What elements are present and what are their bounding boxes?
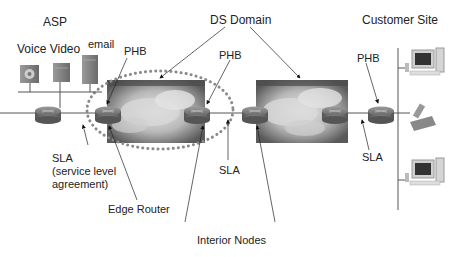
customer-site-label: Customer Site [362,14,438,27]
sla-left-line3: agreement) [52,178,116,191]
sla-label-left: SLA (service level agreement) [52,152,116,191]
diffserv-diagram: ASP Voice Video email DS Domain Customer… [0,0,469,257]
voice-server-icon [20,65,39,83]
voice-video-label: Voice Video [17,43,80,56]
phb-label-middle: PHB [219,49,242,62]
diagram-canvas [0,0,469,257]
asp-router-icon [35,107,61,125]
sla-left-line2: (service level [52,165,116,178]
edge-router-icon-1 [95,107,121,125]
sla-label-middle: SLA [219,164,240,177]
phb-label-right: PHB [357,52,380,65]
video-server-icon [53,63,70,82]
edge-router-icon-2 [184,107,210,125]
sla-label-right: SLA [362,151,383,164]
email-server-icon [82,55,98,84]
computer-icon-2 [405,158,444,185]
email-label: email [88,38,114,51]
sla-left-line1: SLA [52,152,116,165]
phb-label-left: PHB [124,45,147,58]
phone-icon [410,103,436,131]
asp-label: ASP [43,16,67,29]
edge-router-icon-4 [322,107,348,125]
computer-icon-1 [405,48,444,75]
edge-router-label: Edge Router [108,203,170,216]
customer-router-icon [368,107,394,125]
edge-router-icon-3 [242,107,268,125]
interior-nodes-label: Interior Nodes [197,234,266,247]
ds-domain-label: DS Domain [210,14,271,27]
